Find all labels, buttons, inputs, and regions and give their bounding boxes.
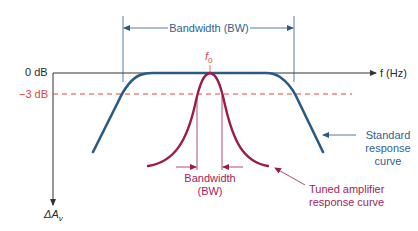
tuned-response-curve xyxy=(148,73,268,166)
f0-label: f0 xyxy=(205,50,213,67)
tuned-curve-line1: Tuned amplifier xyxy=(309,183,384,196)
x-axis-label: f (Hz) xyxy=(380,67,407,80)
y-axis-label-main: ΔA xyxy=(44,208,59,220)
tuned-bandwidth-line2: (BW) xyxy=(180,185,240,198)
standard-curve-line1: Standard xyxy=(358,129,418,142)
standard-curve-line2: response xyxy=(358,142,418,155)
bandwidth-top-label: Bandwidth (BW) xyxy=(168,22,250,35)
standard-curve-line3: curve xyxy=(358,155,418,168)
y-axis-label: ΔAv xyxy=(44,208,63,225)
y-axis-label-sub: v xyxy=(59,214,63,223)
tuned-curve-line2: response curve xyxy=(309,196,384,209)
minus-3db-label: −3 dB xyxy=(19,88,48,101)
tuned-label-pointer xyxy=(275,168,305,185)
standard-response-curve xyxy=(93,73,323,152)
zero-db-label: 0 dB xyxy=(25,66,48,79)
tuned-bandwidth-line1: Bandwidth xyxy=(180,172,240,185)
tuned-bandwidth-label: Bandwidth (BW) xyxy=(180,172,240,198)
standard-curve-label: Standard response curve xyxy=(358,129,418,168)
f0-label-sub: 0 xyxy=(208,56,212,65)
tuned-curve-label: Tuned amplifier response curve xyxy=(309,183,384,209)
